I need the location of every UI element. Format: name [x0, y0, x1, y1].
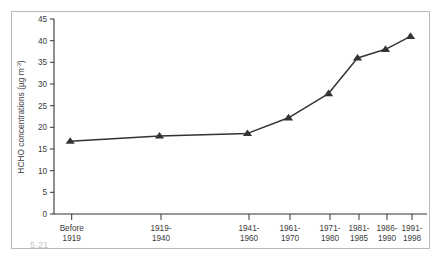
y-tick-label-15: 15	[38, 145, 48, 154]
data-series-hcho	[66, 32, 416, 143]
x-tick-label-6-line2: 1990	[378, 234, 397, 243]
y-tick-label-25: 25	[38, 102, 48, 111]
y-tick-label-35: 35	[38, 58, 48, 67]
y-tick-label-30: 30	[38, 80, 48, 89]
y-tick-label-10: 10	[38, 167, 48, 176]
x-tick-label-2-line1: 1941-	[239, 224, 260, 233]
y-axis-title-close: )	[16, 60, 26, 63]
data-point-marker[interactable]	[381, 45, 390, 52]
y-axis-title-main: HCHO concentrations (µg m	[16, 68, 26, 173]
y-tick-label-5: 5	[42, 188, 47, 197]
x-tick-labels: Before 1919 1919- 1940 1941- 1960 1961- …	[60, 224, 423, 243]
data-point-marker[interactable]	[284, 114, 293, 121]
x-tick-label-3-line2: 1970	[281, 234, 300, 243]
y-tick-label-45: 45	[38, 15, 48, 24]
chart-frame: 0 5 10 15 20 25 30 35 40 45 HCHO concent…	[11, 11, 430, 249]
x-tick-label-0-line2: 1919	[63, 234, 82, 243]
y-tick-label-0: 0	[42, 210, 47, 219]
x-tick-label-7-line2: 1998	[403, 234, 422, 243]
x-tick-marks	[72, 214, 412, 220]
x-tick-label-7-line1: 1991-	[402, 224, 423, 233]
y-tick-marks	[50, 19, 54, 214]
y-tick-label-40: 40	[38, 37, 48, 46]
x-tick-label-5-line1: 1981-	[349, 224, 370, 233]
x-tick-label-4-line2: 1980	[321, 234, 340, 243]
svg-text:HCHO concentrations (µg m-3): HCHO concentrations (µg m-3)	[16, 60, 26, 174]
x-tick-label-5-line2: 1985	[350, 234, 369, 243]
chart-axes	[54, 19, 427, 214]
x-tick-label-4-line1: 1971-	[320, 224, 341, 233]
y-tick-labels: 0 5 10 15 20 25 30 35 40 45	[38, 15, 48, 219]
x-tick-label-1-line1: 1919-	[151, 224, 172, 233]
y-axis-title: HCHO concentrations (µg m-3)	[16, 60, 26, 174]
x-tick-label-2-line2: 1960	[240, 234, 259, 243]
x-tick-label-1-line2: 1940	[152, 234, 171, 243]
series-line	[70, 36, 410, 141]
x-tick-label-3-line1: 1961-	[280, 224, 301, 233]
x-tick-label-6-line1: 1986-	[377, 224, 398, 233]
line-chart-svg: 0 5 10 15 20 25 30 35 40 45 HCHO concent…	[12, 12, 429, 248]
y-tick-label-20: 20	[38, 123, 48, 132]
data-point-marker[interactable]	[406, 32, 415, 39]
x-tick-label-0-line1: Before	[60, 224, 85, 233]
figure-number-label: 5.21	[30, 240, 48, 250]
figure-container: 0 5 10 15 20 25 30 35 40 45 HCHO concent…	[0, 0, 443, 263]
